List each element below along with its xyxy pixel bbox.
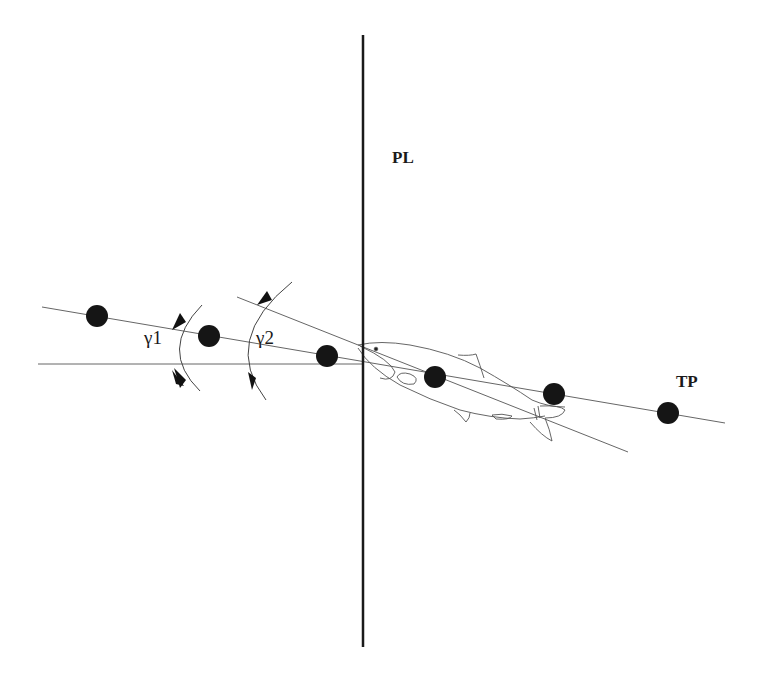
- angle-gamma1-label: γ1: [144, 327, 162, 349]
- position-dot: [543, 383, 565, 405]
- angle-gamma2-label: γ2: [256, 327, 274, 349]
- angle-arc-gamma1: [172, 305, 202, 391]
- trajectory-label: TP: [676, 372, 698, 392]
- trajectory-line: [42, 307, 725, 423]
- position-dot: [316, 345, 338, 367]
- position-dot: [86, 305, 108, 327]
- position-dot: [424, 366, 446, 388]
- position-dot: [657, 402, 679, 424]
- plane-label: PL: [392, 148, 414, 168]
- diagram-canvas: [0, 0, 762, 682]
- position-dot: [198, 325, 220, 347]
